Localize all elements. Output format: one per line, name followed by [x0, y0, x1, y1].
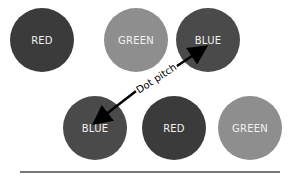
bottom-rule	[20, 171, 280, 173]
dot-pitch-arrow-icon: Dot pitch	[0, 0, 294, 178]
